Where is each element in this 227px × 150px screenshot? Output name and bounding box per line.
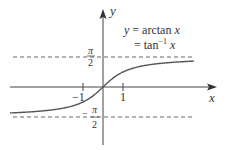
- x-axis-label: x: [208, 90, 215, 105]
- eq-arctan: = arctan: [129, 23, 174, 37]
- eq-x2: x: [167, 38, 176, 52]
- equation-line-2: = tan−1 x: [134, 37, 176, 52]
- equation-line-1: y = arctan x: [123, 23, 180, 37]
- pi-symbol: π: [88, 45, 94, 56]
- tick-label-neg-one: −1: [72, 90, 85, 104]
- denominator: 2: [88, 57, 93, 68]
- tick-label-pos-one: 1: [120, 90, 126, 104]
- arctan-graph: y x −1 1 π 2 − π 2 y = arctan x = tan−1 …: [0, 0, 227, 150]
- eq-sup: −1: [158, 37, 167, 46]
- eq-tan: = tan: [134, 38, 158, 52]
- pi-symbol: π: [92, 104, 98, 115]
- y-axis-label: y: [108, 3, 116, 18]
- minus-sign: −: [82, 108, 88, 119]
- denominator: 2: [92, 119, 97, 130]
- eq-x: x: [173, 23, 180, 37]
